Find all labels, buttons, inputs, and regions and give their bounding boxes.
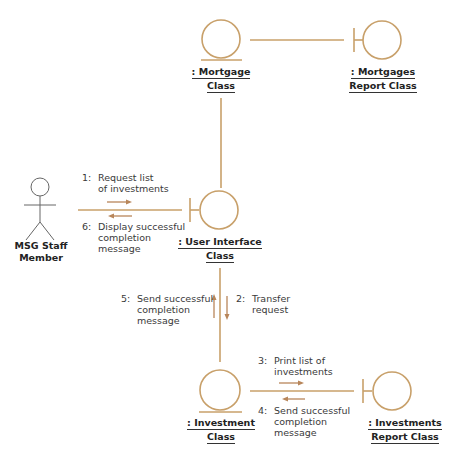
boundary-icon-mortgages-report xyxy=(354,21,401,59)
actor-stick-figure-icon xyxy=(24,178,56,240)
message-3: 3: Print list of investments xyxy=(258,355,267,366)
message-2: 2: Transfer request xyxy=(236,293,245,304)
message-4: 4: Send successful completion message xyxy=(258,405,267,427)
object-investment-class: : Investment Class xyxy=(180,416,262,444)
message-1: 1: Request list of investments xyxy=(82,172,91,183)
boundary-icon-investments-report xyxy=(363,372,411,410)
message-5: 5: Send successful completion message xyxy=(121,293,130,315)
actor-msg-staff-member: MSG Staff Member xyxy=(12,240,70,264)
arrow-right-icon-msg1 xyxy=(107,200,132,205)
message-6: 6: Display successful completion message xyxy=(82,221,91,243)
arrow-left-icon-msg4 xyxy=(282,397,305,402)
arrow-down-icon-msg2 xyxy=(225,296,230,320)
entity-icon-investment xyxy=(199,370,242,412)
object-user-interface-class: : User Interface Class xyxy=(170,235,270,263)
object-mortgage-class: : Mortgage Class xyxy=(182,65,260,93)
arrow-left-icon-msg6 xyxy=(108,214,132,219)
object-investments-report-class: : Investments Report Class xyxy=(360,416,450,444)
entity-icon-mortgage xyxy=(201,20,242,60)
boundary-icon-user-interface xyxy=(190,191,238,229)
arrow-right-icon-msg3 xyxy=(279,381,304,386)
object-mortgages-report-class: : Mortgages Report Class xyxy=(343,65,423,93)
